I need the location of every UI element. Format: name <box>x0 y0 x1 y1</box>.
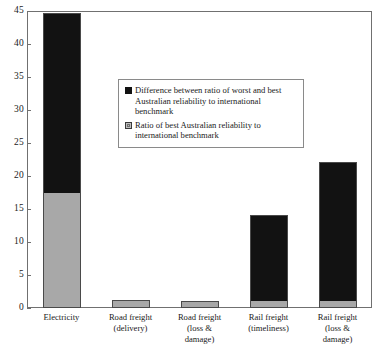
x-axis-label-line: (loss & <box>303 323 372 334</box>
bar-group <box>43 11 81 308</box>
legend-line: Difference between ratio of worst and be… <box>135 85 281 96</box>
y-axis-tick-label: 40 <box>0 39 24 49</box>
legend-swatch-black-icon <box>125 87 132 94</box>
x-axis-label-line: (delivery) <box>96 323 165 334</box>
y-axis-tick-label: 15 <box>0 204 24 214</box>
bar-group <box>181 11 219 308</box>
x-axis-label-line: Rail freight <box>303 312 372 323</box>
y-axis-tick-label: 20 <box>0 171 24 181</box>
y-axis-tick-label: 30 <box>0 105 24 115</box>
bar-chart: 051015202530354045 ElectricityRoad freig… <box>0 0 384 354</box>
legend-item-difference: Difference between ratio of worst and be… <box>125 85 297 117</box>
legend-label-ratio-best: Ratio of best Australian reliability to … <box>135 120 261 141</box>
y-axis-tick-label: 10 <box>0 237 24 247</box>
legend-line: Ratio of best Australian reliability to <box>135 120 261 131</box>
bar-segment-ratio-best <box>250 301 288 308</box>
bar-segment-ratio-best <box>43 193 81 309</box>
x-axis-tick-label: Road freight(loss &damage) <box>165 312 234 345</box>
bar-stack <box>43 13 81 308</box>
bar-group <box>319 11 357 308</box>
y-axis-tick-mark <box>27 308 31 309</box>
bar-group <box>112 11 150 308</box>
x-axis-label-line: damage) <box>303 334 372 345</box>
bar-segment-ratio-best <box>181 301 219 308</box>
bar-stack <box>250 215 288 308</box>
x-axis-label-line: (loss & <box>165 323 234 334</box>
bar-segment-ratio-best <box>319 301 357 308</box>
x-axis-tick-label: Rail freight(timeliness) <box>234 312 303 334</box>
bar-segment-difference <box>250 215 288 301</box>
legend-item-ratio-best: Ratio of best Australian reliability to … <box>125 120 297 141</box>
bar-stack <box>181 301 219 308</box>
bar-group <box>250 11 288 308</box>
legend-line: Australian reliability to international <box>135 96 281 107</box>
x-axis-tick-label: Rail freight(loss &damage) <box>303 312 372 345</box>
legend-line: benchmark <box>135 106 281 117</box>
y-axis-tick-label: 5 <box>0 270 24 280</box>
bar-stack <box>319 162 357 308</box>
bar-segment-difference <box>43 13 81 193</box>
bar-segment-ratio-best <box>112 300 150 308</box>
bar-segment-difference <box>319 162 357 301</box>
x-axis-label-line: damage) <box>165 334 234 345</box>
bars-layer <box>27 11 372 308</box>
x-axis-label-line: (timeliness) <box>234 323 303 334</box>
x-axis-label-line: Road freight <box>165 312 234 323</box>
legend-line: international benchmark <box>135 130 261 141</box>
y-axis-tick-label: 25 <box>0 138 24 148</box>
x-axis-label-line: Electricity <box>27 312 96 323</box>
y-axis-tick-label: 45 <box>0 6 24 16</box>
y-axis-tick-label: 35 <box>0 72 24 82</box>
bar-stack <box>112 300 150 308</box>
x-axis-label-line: Road freight <box>96 312 165 323</box>
legend-swatch-gray-icon <box>125 122 132 129</box>
y-axis-tick-label: 0 <box>0 303 24 313</box>
chart-legend: Difference between ratio of worst and be… <box>118 79 304 148</box>
x-axis-label-line: Rail freight <box>234 312 303 323</box>
legend-label-difference: Difference between ratio of worst and be… <box>135 85 281 117</box>
x-axis-tick-label: Road freight(delivery) <box>96 312 165 334</box>
x-axis-tick-label: Electricity <box>27 312 96 323</box>
